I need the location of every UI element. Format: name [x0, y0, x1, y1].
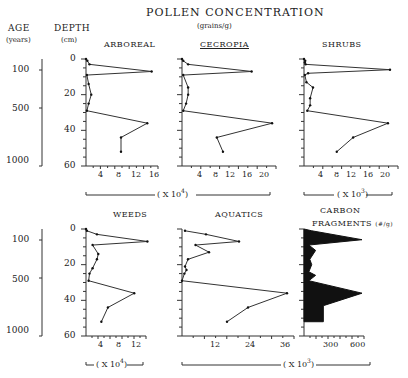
chart-canvas [0, 0, 408, 378]
